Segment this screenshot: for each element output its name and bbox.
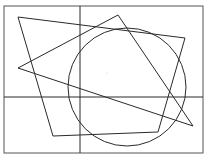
geometry-diagram <box>0 0 209 157</box>
circle <box>68 28 186 146</box>
center-dot <box>106 72 107 73</box>
